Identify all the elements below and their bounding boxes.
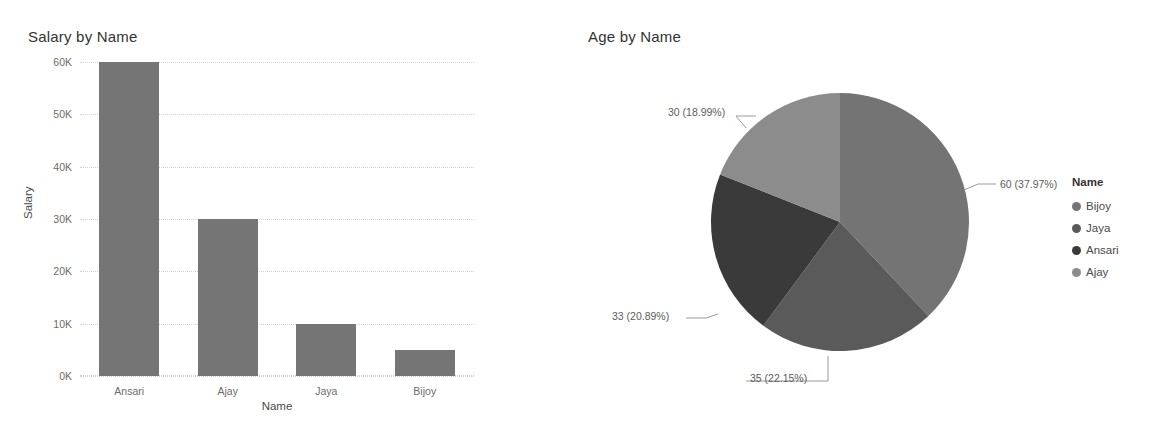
pie-data-label-ajay: 30 (18.99%) [668,106,725,118]
pie-data-label-bijoy: 60 (37.97%) [1000,178,1057,190]
x-axis-tick-label: Ansari [114,385,144,397]
bar-chart-title: Salary by Name [28,28,138,45]
bar-jaya[interactable] [296,324,356,376]
y-axis-tick-label: 30K [53,213,72,225]
legend-item-label: Ajay [1086,266,1108,278]
bar-chart-plot-area: 0K10K20K30K40K50K60KAnsariAjayJayaBijoy [80,62,474,376]
bar-ajay[interactable] [198,219,258,376]
y-axis-tick-label: 10K [53,318,72,330]
legend-item-jaya[interactable]: Jaya [1072,217,1165,239]
x-axis-tick-label: Bijoy [413,385,436,397]
bar-ansari[interactable] [99,62,159,376]
y-axis-tick-label: 60K [53,56,72,68]
legend-color-swatch [1072,246,1081,255]
pie-data-label-jaya: 35 (22.15%) [750,372,807,384]
legend-item-ajay[interactable]: Ajay [1072,261,1165,283]
legend-item-ansari[interactable]: Ansari [1072,239,1165,261]
legend-item-label: Ansari [1086,244,1119,256]
y-axis-tick-label: 50K [53,108,72,120]
legend-color-swatch [1072,268,1081,277]
legend-title: Name [1072,176,1165,188]
x-axis-tick-label: Ajay [218,385,238,397]
bar-bijoy[interactable] [395,350,455,376]
y-axis-tick-label: 20K [53,265,72,277]
legend-item-label: Bijoy [1086,200,1111,212]
legend-item-label: Jaya [1086,222,1110,234]
salary-by-name-chart[interactable]: Salary by Name 0K10K20K30K40K50K60KAnsar… [0,0,500,435]
legend-item-bijoy[interactable]: Bijoy [1072,195,1165,217]
bar-chart-y-axis-title: Salary [22,186,34,219]
gridline [80,376,474,377]
age-by-name-chart[interactable]: Age by Name 60 (37.97%) 35 (22.15%) 33 (… [560,0,1165,435]
pie-chart-legend: Name BijoyJayaAnsariAjay [1072,176,1165,283]
bar-chart-x-axis-title: Name [80,400,474,412]
y-axis-tick-label: 0K [59,370,72,382]
legend-color-swatch [1072,224,1081,233]
y-axis-tick-label: 40K [53,161,72,173]
legend-color-swatch [1072,202,1081,211]
x-axis-tick-label: Jaya [315,385,337,397]
pie-data-label-ansari: 33 (20.89%) [612,310,669,322]
